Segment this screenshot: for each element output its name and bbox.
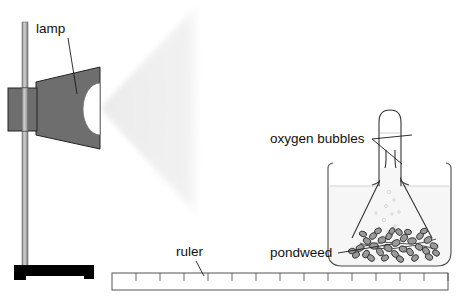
label-oxygen-bubbles: oxygen bubbles (270, 131, 365, 146)
photosynthesis-apparatus-diagram: lamp oxygen bubbles pondweed ruler (0, 0, 462, 299)
ruler (112, 273, 448, 290)
label-lamp: lamp (36, 21, 65, 36)
oxygen-leader-line-stem (372, 139, 402, 164)
label-pondweed: pondweed (270, 245, 332, 260)
oxygen-leader-line-tube (372, 135, 412, 139)
diagram-canvas: lamp oxygen bubbles pondweed ruler (0, 0, 462, 299)
label-ruler: ruler (176, 244, 204, 259)
light-beam (102, 4, 197, 216)
inverted-test-tube (379, 110, 401, 188)
retort-stand (14, 22, 94, 280)
